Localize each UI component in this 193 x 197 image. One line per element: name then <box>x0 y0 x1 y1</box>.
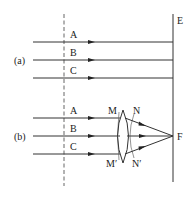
ray-a: A <box>33 29 173 44</box>
part-a: (a) A B C <box>14 29 173 80</box>
focus-label: F <box>177 131 183 142</box>
part-a-label: (a) <box>14 55 25 67</box>
arrow-icon <box>88 40 95 44</box>
arrow-icon <box>88 58 95 62</box>
ray-c-label: C <box>70 65 77 76</box>
arrow-icon <box>139 122 147 127</box>
ray-c: C <box>33 65 173 80</box>
arrow-icon <box>139 146 147 151</box>
ray-a: A <box>33 105 120 120</box>
ray-a-label: A <box>70 29 78 40</box>
label-n-prime: N′ <box>132 158 141 169</box>
ray-c-label: C <box>70 141 77 152</box>
arrow-icon <box>88 134 95 138</box>
arrow-icon <box>88 152 95 156</box>
screen-label: E <box>177 15 183 26</box>
converging-ray-a <box>125 118 173 136</box>
converging-ray-c <box>125 136 173 154</box>
ray-c: C <box>33 141 120 156</box>
part-b-label: (b) <box>14 131 26 143</box>
part-b: (b) A B C M N M′ <box>14 105 183 169</box>
ray-b: B <box>33 123 120 138</box>
ray-b: B <box>33 47 173 62</box>
ray-b-label: B <box>70 123 77 134</box>
ray-a-label: A <box>70 105 78 116</box>
optics-diagram: E (a) A B C (b) A B <box>0 0 193 197</box>
label-m-prime: M′ <box>106 158 117 169</box>
arrow-icon <box>139 134 146 138</box>
label-m: M <box>108 105 117 116</box>
arrow-icon <box>88 116 95 120</box>
label-n: N <box>133 105 140 116</box>
arrow-icon <box>88 76 95 80</box>
ray-b-label: B <box>70 47 77 58</box>
